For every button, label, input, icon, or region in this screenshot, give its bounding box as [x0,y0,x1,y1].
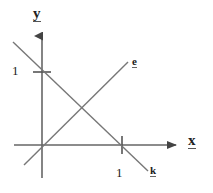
y-tick-label-1: 1 [12,64,19,77]
line-e-label: e [132,56,137,68]
diagram-canvas [0,0,213,193]
x-axis-label: x [188,133,196,149]
line-e [24,62,128,165]
line-k-label: k [150,165,156,177]
y-axis-label: y [33,6,41,22]
coordinate-diagram: y x 1 1 e k [0,0,213,193]
line-k [13,42,148,171]
x-tick-label-1: 1 [116,166,123,179]
